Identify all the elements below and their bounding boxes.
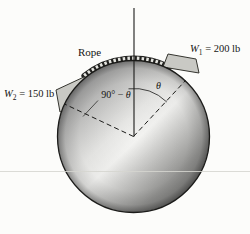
rope-label: Rope: [78, 46, 101, 58]
complement-angle-prefix: 90° −: [101, 89, 126, 100]
w1-value: = 200 lb: [203, 43, 241, 54]
statics-diagram: Rope W1 = 200 lb W2 = 150 lb θ 90° − θ: [0, 0, 250, 234]
w1-label: W1 = 200 lb: [190, 43, 240, 57]
w2-value: = 150 lb: [17, 88, 55, 99]
theta-label: θ: [156, 80, 161, 91]
complement-angle-label: 90° − θ: [101, 89, 131, 100]
w2-label: W2 = 150 lb: [4, 88, 54, 102]
complement-angle-theta: θ: [126, 89, 131, 100]
